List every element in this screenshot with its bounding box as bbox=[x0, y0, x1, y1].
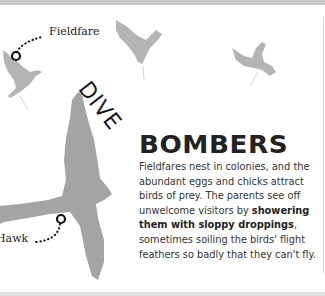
body-paragraph: Fieldfares nest in colonies, and the abu… bbox=[139, 160, 319, 262]
hawk-silhouette bbox=[0, 92, 112, 280]
fieldfare-bird-left bbox=[3, 50, 42, 110]
page-bottom-edge bbox=[0, 292, 325, 296]
fieldfare-bird-right bbox=[232, 42, 276, 86]
hawk-label: Hawk bbox=[0, 232, 28, 245]
fieldfare-bird-top bbox=[116, 20, 162, 80]
hawk-pointer bbox=[36, 215, 65, 242]
fieldfare-pointer bbox=[12, 37, 42, 60]
fieldfare-label: Fieldfare bbox=[49, 25, 100, 38]
page-title: BOMBERS bbox=[139, 130, 288, 159]
